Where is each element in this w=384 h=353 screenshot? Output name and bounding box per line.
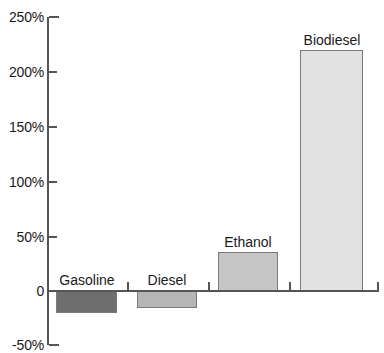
y-axis-label-100-wrap: 100% — [0, 175, 44, 189]
x-axis-zero-line — [47, 290, 379, 292]
y-axis-label-150-wrap: 150% — [0, 120, 44, 134]
x-axis-tick-2 — [208, 282, 210, 291]
y-axis-label-50-wrap: 50% — [0, 230, 44, 244]
bar-chart: 250% 200% 150% 100% 50% 0 -50% Gasoline … — [0, 0, 384, 353]
bar-biodiesel — [300, 50, 363, 291]
bar-ethanol — [218, 252, 278, 291]
x-axis-tick-4 — [377, 282, 379, 291]
y-axis-label-200: 200% — [0, 65, 44, 79]
y-axis-label-50: 50% — [0, 230, 44, 244]
y-axis-label-250: 250% — [0, 10, 44, 24]
y-axis-label-150: 150% — [0, 120, 44, 134]
y-axis-tick-250 — [49, 16, 59, 18]
bar-label-ethanol: Ethanol — [214, 235, 282, 250]
y-axis-label-neg50: -50% — [0, 338, 44, 352]
y-axis-label-250-wrap: 250% — [0, 10, 44, 24]
x-axis-tick-1 — [127, 282, 129, 291]
y-axis-tick-50 — [49, 236, 57, 238]
y-axis-tick-150 — [49, 126, 57, 128]
y-axis-label-100: 100% — [0, 175, 44, 189]
y-axis-tick-neg50 — [49, 344, 59, 346]
bar-label-gasoline: Gasoline — [50, 273, 124, 288]
y-axis-tick-200 — [49, 71, 57, 73]
bar-label-diesel: Diesel — [137, 273, 197, 288]
bar-gasoline — [56, 290, 117, 313]
y-axis-label-neg50-wrap: -50% — [0, 338, 44, 352]
bar-diesel — [137, 290, 197, 308]
bar-label-biodiesel: Biodiesel — [294, 33, 370, 48]
y-axis-label-0-wrap: 0 — [0, 284, 44, 298]
y-axis-label-200-wrap: 200% — [0, 65, 44, 79]
x-axis-tick-3 — [289, 282, 291, 291]
y-axis-label-0: 0 — [0, 284, 44, 298]
y-axis-tick-100 — [49, 181, 57, 183]
